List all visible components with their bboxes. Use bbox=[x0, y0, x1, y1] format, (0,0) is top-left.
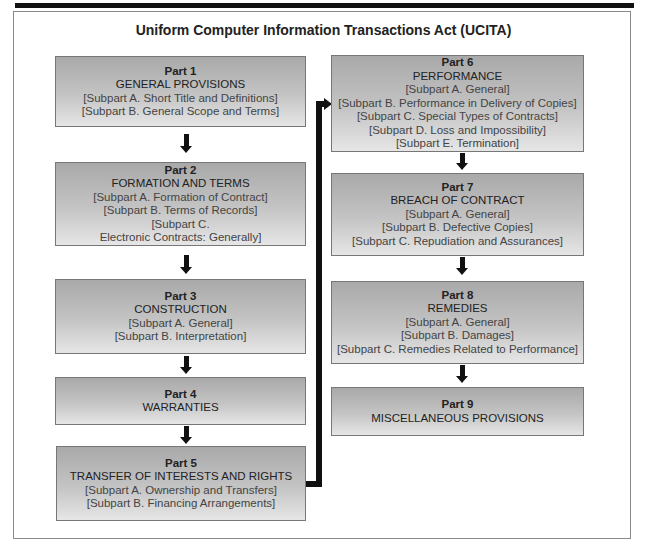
subpart: [Subpart C. bbox=[151, 218, 209, 232]
part-number: Part 1 bbox=[165, 65, 197, 79]
subpart: [Subpart B. General Scope and Terms] bbox=[82, 105, 279, 119]
part-2-box: Part 2 FORMATION AND TERMS [Subpart A. F… bbox=[55, 162, 306, 246]
subpart: [Subpart C. Special Types of Contracts] bbox=[357, 110, 558, 124]
part-number: Part 2 bbox=[165, 164, 197, 178]
part-title: REMEDIES bbox=[427, 302, 487, 316]
part-1-box: Part 1 GENERAL PROVISIONS [Subpart A. Sh… bbox=[55, 56, 306, 127]
part-title: FORMATION AND TERMS bbox=[111, 177, 249, 191]
subpart: [Subpart C. Remedies Related to Performa… bbox=[337, 343, 578, 357]
subpart: [Subpart A. General] bbox=[405, 316, 509, 330]
subpart: [Subpart A. Formation of Contract] bbox=[93, 191, 268, 205]
part-number: Part 3 bbox=[165, 290, 197, 304]
subpart: Electronic Contracts: Generally] bbox=[100, 231, 262, 245]
part-number: Part 9 bbox=[442, 398, 474, 412]
subpart: [Subpart A. Ownership and Transfers] bbox=[85, 484, 277, 498]
part-number: Part 8 bbox=[442, 289, 474, 303]
part-title: BREACH OF CONTRACT bbox=[390, 194, 524, 208]
part-number: Part 4 bbox=[165, 388, 197, 402]
subpart: [Subpart C. Repudiation and Assurances] bbox=[352, 235, 563, 249]
subpart: [Subpart A. General] bbox=[128, 317, 232, 331]
subpart: [Subpart B. Terms of Records] bbox=[104, 204, 258, 218]
connector-line bbox=[316, 101, 322, 487]
subpart: [Subpart A. Short Title and Definitions] bbox=[83, 92, 277, 106]
subpart: [Subpart B. Damages] bbox=[401, 329, 514, 343]
top-rule bbox=[15, 3, 634, 8]
part-title: GENERAL PROVISIONS bbox=[116, 78, 245, 92]
part-3-box: Part 3 CONSTRUCTION [Subpart A. General]… bbox=[55, 279, 306, 354]
subpart: [Subpart A. General] bbox=[405, 83, 509, 97]
part-number: Part 5 bbox=[165, 457, 197, 471]
part-title: WARRANTIES bbox=[142, 401, 218, 415]
part-5-box: Part 5 TRANSFER OF INTERESTS AND RIGHTS … bbox=[56, 446, 306, 521]
part-7-box: Part 7 BREACH OF CONTRACT [Subpart A. Ge… bbox=[331, 173, 584, 256]
part-9-box: Part 9 MISCELLANEOUS PROVISIONS bbox=[331, 387, 584, 436]
subpart: [Subpart A. General] bbox=[405, 208, 509, 222]
part-6-box: Part 6 PERFORMANCE [Subpart A. General] … bbox=[331, 55, 584, 152]
subpart: [Subpart B. Performance in Delivery of C… bbox=[338, 97, 576, 111]
subpart: [Subpart D. Loss and Impossibility] bbox=[369, 124, 546, 138]
part-title: CONSTRUCTION bbox=[134, 303, 227, 317]
subpart: [Subpart B. Defective Copies] bbox=[382, 221, 533, 235]
subpart: [Subpart B. Interpretation] bbox=[115, 330, 247, 344]
part-number: Part 6 bbox=[442, 56, 474, 70]
part-4-box: Part 4 WARRANTIES bbox=[55, 377, 306, 425]
diagram-title: Uniform Computer Information Transaction… bbox=[0, 22, 647, 38]
part-title: MISCELLANEOUS PROVISIONS bbox=[371, 412, 544, 426]
subpart: [Subpart E. Termination] bbox=[396, 137, 519, 151]
subpart: [Subpart B. Financing Arrangements] bbox=[87, 497, 276, 511]
part-title: TRANSFER OF INTERESTS AND RIGHTS bbox=[70, 470, 292, 484]
part-number: Part 7 bbox=[442, 181, 474, 195]
part-8-box: Part 8 REMEDIES [Subpart A. General] [Su… bbox=[331, 281, 584, 364]
part-title: PERFORMANCE bbox=[413, 70, 502, 84]
